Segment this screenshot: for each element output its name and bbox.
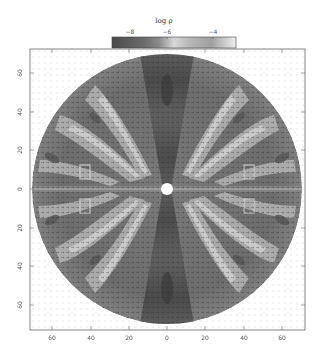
y-tick-label: 40	[16, 108, 23, 116]
x-tick-label: 40	[240, 334, 248, 341]
colorbar-gradient	[112, 37, 236, 48]
x-tick-label: 20	[201, 334, 209, 341]
y-tick-label: 20	[16, 146, 23, 154]
y-tick-label: 60	[16, 301, 23, 309]
colorbar: log ρ −8 −6 −4	[112, 17, 236, 48]
y-tick-label: 40	[16, 262, 23, 270]
plot-area	[30, 49, 305, 330]
x-tick-label: 0	[165, 334, 169, 341]
x-tick-label: 40	[87, 334, 95, 341]
x-tick-label: 20	[125, 334, 133, 341]
colorbar-tick-label: −8	[126, 28, 135, 35]
y-tick-labels: 60 40 20 0 20 40 60	[16, 69, 23, 309]
y-tick-label: 0	[16, 187, 23, 191]
x-tick-labels: 60 40 20 0 20 40 60	[48, 334, 286, 341]
figure: log ρ −8 −6 −4	[0, 0, 325, 362]
central-sink	[161, 183, 173, 195]
colorbar-tick-label: −4	[209, 28, 218, 35]
x-tick-label: 60	[278, 334, 286, 341]
colorbar-tick-label: −6	[163, 28, 172, 35]
x-tick-label: 60	[48, 334, 56, 341]
y-tick-label: 20	[16, 224, 23, 232]
colorbar-label: log ρ	[155, 17, 172, 25]
y-tick-label: 60	[16, 69, 23, 77]
